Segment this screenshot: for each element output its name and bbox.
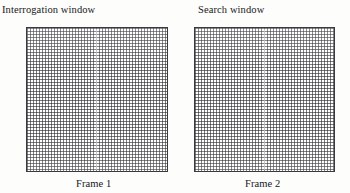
interrogation-window-label: Interrogation window (2, 3, 95, 16)
frame-2-label: Frame 2 (245, 177, 280, 190)
box-shading-overlay-right (195, 28, 334, 171)
box-shading-overlay-left (27, 28, 167, 171)
scan-seam-artifact-right (264, 29, 265, 170)
interrogation-window-box (26, 27, 168, 172)
search-window-box (194, 27, 335, 172)
figure-root: Interrogation window Frame 1 Search wind… (0, 0, 350, 193)
frame-1-label: Frame 1 (76, 177, 111, 190)
panel-frame-1: Interrogation window Frame 1 (0, 0, 175, 193)
search-window-label: Search window (198, 3, 264, 16)
scan-seam-artifact-left (96, 29, 97, 170)
